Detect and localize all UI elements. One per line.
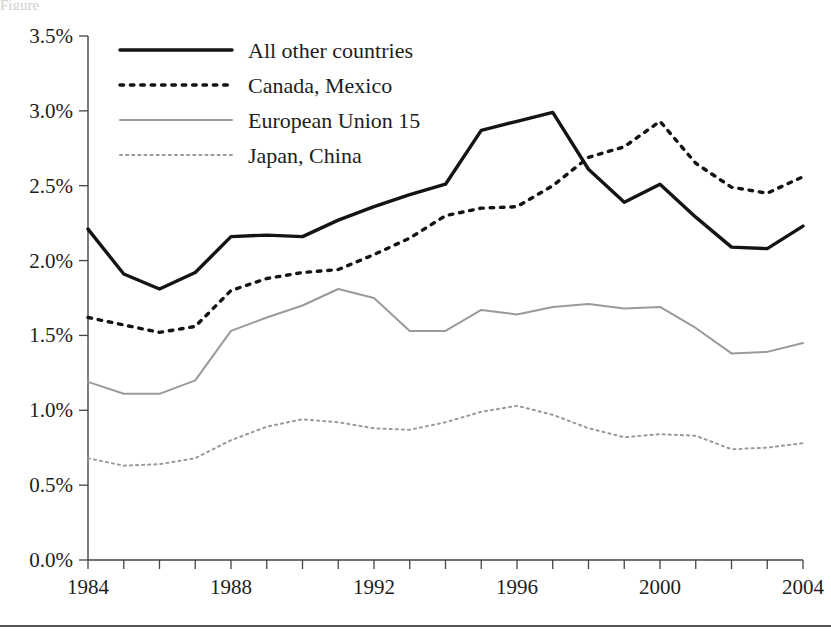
y-tick-label: 1.0% [29,398,73,422]
x-tick-label: 1984 [67,575,110,599]
legend-label: All other countries [248,38,413,63]
y-tick-label: 2.5% [29,174,73,198]
legend-label: Japan, China [248,143,362,168]
legend-label: Canada, Mexico [248,73,392,98]
y-tick-label: 2.0% [29,249,73,273]
x-tick-label: 1988 [210,575,252,599]
chart-legend: All other countriesCanada, MexicoEuropea… [120,38,420,168]
x-axis: 198419881992199620002004 [67,560,825,599]
y-tick-label: 3.5% [29,24,73,48]
x-tick-label: 1992 [353,575,395,599]
y-axis: 0.0%0.5%1.0%1.5%2.0%2.5%3.0%3.5% [29,24,88,572]
series-line [88,112,803,289]
data-series-group [88,112,803,465]
y-tick-label: 1.5% [29,323,73,347]
x-tick-label: 2000 [639,575,681,599]
y-tick-label: 0.0% [29,548,73,572]
line-chart: 0.0%0.5%1.0%1.5%2.0%2.5%3.0%3.5% 1984198… [0,0,831,633]
footer-divider [0,625,831,627]
series-line [88,289,803,394]
series-line [88,121,803,332]
figure-container: Figure 0.0%0.5%1.0%1.5%2.0%2.5%3.0%3.5% … [0,0,831,633]
x-tick-label: 1996 [496,575,538,599]
y-tick-label: 0.5% [29,473,73,497]
legend-label: European Union 15 [248,108,420,133]
y-tick-label: 3.0% [29,99,73,123]
x-tick-label: 2004 [782,575,825,599]
series-line [88,406,803,466]
